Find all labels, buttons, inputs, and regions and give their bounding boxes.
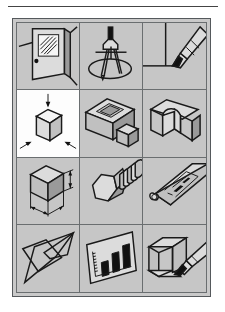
cube-with-view-arrows-icon [17, 90, 79, 156]
cell-hex-head-bolt[interactable] [80, 158, 143, 225]
pencil-drawing-corner-icon [143, 23, 206, 89]
cell-door-with-drawing-panel[interactable] [17, 23, 80, 90]
cell-rolled-blueprint[interactable] [143, 158, 206, 225]
hex-head-bolt-icon [80, 158, 142, 224]
cell-sectioned-block-hatched[interactable] [143, 90, 206, 157]
compass-drawing-circle-icon [80, 23, 142, 89]
screenshot-root [0, 0, 225, 312]
cell-bar-chart-on-plane[interactable] [80, 225, 143, 292]
illustration-grid [16, 22, 207, 293]
bar-chart-on-plane-icon [80, 225, 142, 292]
cell-pencil-drawing-corner[interactable] [143, 23, 206, 90]
pencil-drawing-block-icon [143, 225, 206, 292]
cube-with-dimensions-icon [17, 158, 79, 224]
sectioned-block-hatched-icon [143, 90, 206, 156]
figure-frame [12, 18, 211, 297]
cell-cube-with-view-arrows[interactable] [17, 90, 80, 157]
block-with-pocket-icon [80, 90, 142, 156]
cell-intersecting-planes[interactable] [17, 225, 80, 292]
cell-cube-with-dimensions[interactable] [17, 158, 80, 225]
cell-block-with-pocket[interactable] [80, 90, 143, 157]
intersecting-planes-icon [17, 225, 79, 292]
cell-compass-drawing-circle[interactable] [80, 23, 143, 90]
door-with-drawing-panel-icon [17, 23, 79, 89]
cell-pencil-drawing-block[interactable] [143, 225, 206, 292]
horizontal-rule [8, 6, 218, 7]
rolled-blueprint-icon [143, 158, 206, 224]
